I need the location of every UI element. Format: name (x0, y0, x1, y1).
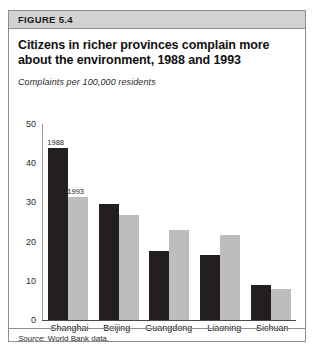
figure-body: Citizens in richer provinces complain mo… (9, 38, 305, 350)
source-note: Source: World Bank data. (18, 334, 109, 343)
bar-sichuan-1993 (271, 289, 291, 320)
bar-guangdong-1993 (169, 230, 189, 320)
bar-sichuan-1988 (251, 285, 271, 320)
bar-group-shanghai: 19881993 (48, 124, 88, 320)
chart-title: Citizens in richer provinces complain mo… (18, 38, 296, 68)
bar-liaoning-1993 (220, 235, 240, 320)
bar-group-beijing (99, 124, 139, 320)
bar-shanghai-1988: 1988 (48, 148, 68, 320)
bar-group-sichuan (251, 124, 291, 320)
y-axis-tick-40: 40 (26, 158, 36, 168)
source-text: World Bank data. (48, 334, 109, 343)
y-axis: 01020304050 (18, 124, 40, 320)
source-divider (9, 328, 305, 329)
x-axis-line (42, 320, 296, 321)
bar-group-guangdong (149, 124, 189, 320)
y-axis-tick-30: 30 (26, 197, 36, 207)
y-axis-tick-50: 50 (26, 119, 36, 129)
bar-liaoning-1988 (200, 255, 220, 320)
figure-container: FIGURE 5.4 Citizens in richer provinces … (8, 10, 306, 342)
bar-shanghai-1993: 1993 (68, 197, 88, 320)
y-axis-tick-20: 20 (26, 237, 36, 247)
figure-header-band: FIGURE 5.4 (9, 11, 305, 29)
bar-guangdong-1988 (149, 251, 169, 320)
bar-groups: 19881993 (43, 124, 296, 320)
bar-beijing-1993 (119, 215, 139, 320)
series-annotation-1988: 1988 (47, 138, 64, 147)
y-axis-tick-10: 10 (26, 276, 36, 286)
series-annotation-1993: 1993 (67, 187, 84, 196)
chart-plot-area: 01020304050 19881993 ShanghaiBeijingGuan… (18, 124, 298, 324)
chart-subtitle: Complaints per 100,000 residents (18, 77, 296, 87)
source-label: Source: (18, 334, 46, 343)
bar-beijing-1988 (99, 204, 119, 320)
bar-group-liaoning (200, 124, 240, 320)
figure-number-label: FIGURE 5.4 (18, 14, 73, 25)
y-axis-tick-0: 0 (31, 315, 36, 325)
